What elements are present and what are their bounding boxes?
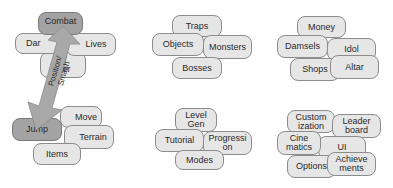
pill-modes: Modes [175,150,224,170]
pill-customization: Custom ization [287,110,335,133]
pill-achievements: Achieve ments [327,152,376,176]
game-systems-diagram: e/ cter Dar Lives Combat Move Jump Terra… [0,0,393,188]
pill-cinematics: Cine matics [277,131,321,155]
pill-altar: Altar [330,55,379,79]
pill-leaderboard: Leader board [332,114,381,138]
pill-monsters: Monsters [203,35,252,59]
pill-objects: Objects [152,33,204,56]
pill-bosses: Bosses [172,57,222,79]
pill-damsels: Damsels [277,35,328,58]
pill-tutorial: Tutorial [155,129,204,152]
